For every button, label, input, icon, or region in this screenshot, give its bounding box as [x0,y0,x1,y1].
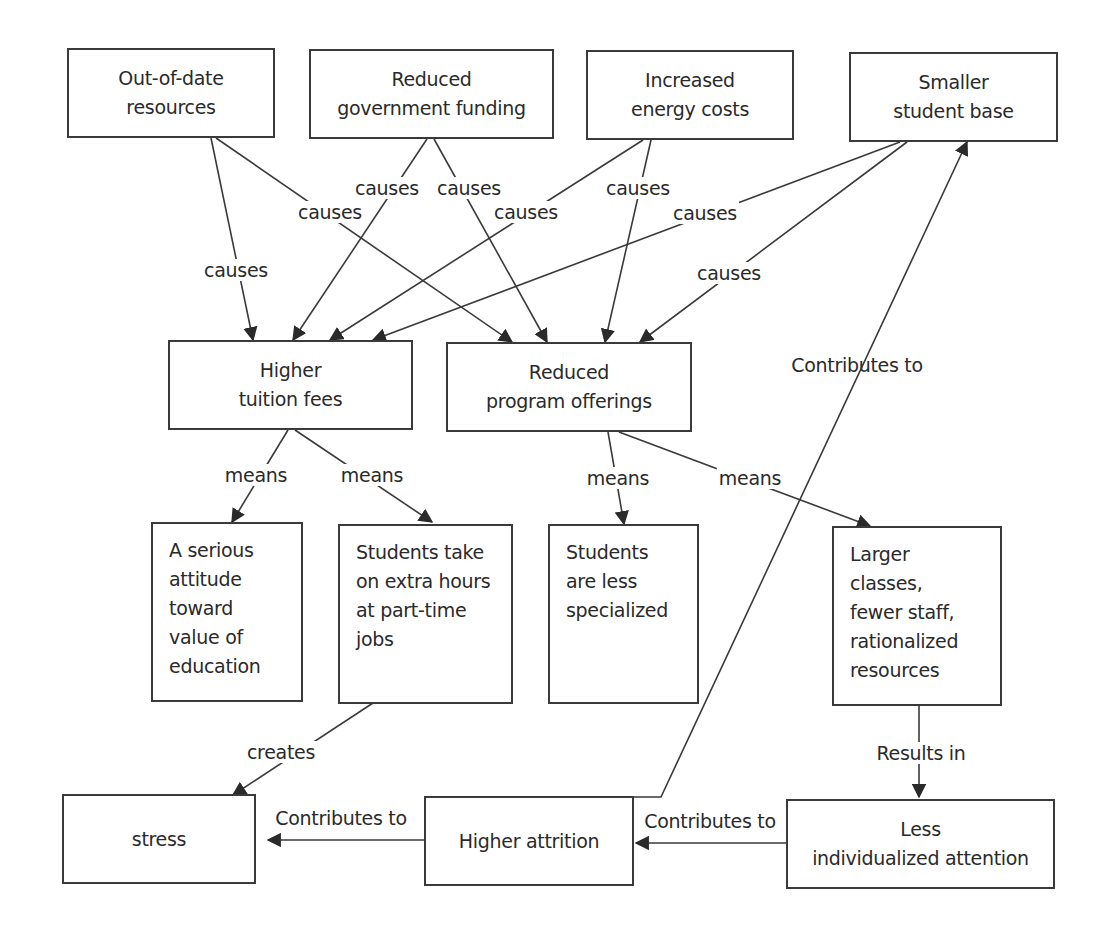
node-label: Higher attrition [459,827,599,856]
edge-label-causes: causes [296,201,364,223]
edge-outofdate-tuition [211,138,253,340]
node-reduced-program-offerings: Reduced program offerings [446,342,692,432]
node-label: Increased energy costs [631,66,749,124]
node-smaller-student-base: Smaller student base [849,52,1058,142]
edge-label-causes: causes [671,202,739,224]
edge-label-contributes-to: Contributes to [273,807,409,829]
edge-label-causes: causes [695,262,763,284]
node-label: A serious attitude toward value of educa… [169,536,261,681]
node-stress: stress [62,794,256,884]
node-label: Less individualized attention [812,815,1029,873]
edge-energy-program [605,140,651,342]
node-label: Smaller student base [893,68,1013,126]
node-label: Students are less specialized [566,538,668,625]
edge-label-means: means [339,464,405,486]
node-higher-tuition-fees: Higher tuition fees [168,340,413,430]
node-label: Out-of-date resources [118,64,223,122]
edge-label-causes: causes [435,177,503,199]
edge-label-means: means [223,464,289,486]
edge-label-contributes-to: Contributes to [642,810,778,832]
node-label: Reduced government funding [337,65,526,123]
node-label: Larger classes, fewer staff, rationalize… [850,540,984,685]
edge-label-means: means [717,467,783,489]
edge-label-means: means [585,467,651,489]
edge-label-causes: causes [604,177,672,199]
node-increased-energy-costs: Increased energy costs [586,50,794,140]
node-larger-classes: Larger classes, fewer staff, rationalize… [832,526,1002,706]
edge-label-creates: creates [245,741,317,763]
edge-base-program [640,142,907,342]
node-less-individualized-attention: Less individualized attention [786,799,1055,889]
node-reduced-government-funding: Reduced government funding [309,49,554,139]
node-label: Students take on extra hours at part-tim… [356,538,490,654]
node-higher-attrition: Higher attrition [424,796,634,886]
node-label: Higher tuition fees [239,356,343,414]
edge-outofdate-program [216,138,512,342]
edge-label-causes: causes [353,177,421,199]
node-serious-attitude: A serious attitude toward value of educa… [151,522,303,702]
node-out-of-date-resources: Out-of-date resources [67,48,275,138]
node-label: stress [132,825,186,854]
edge-label-results-in: Results in [875,742,968,764]
concept-map: Out-of-date resources Reduced government… [0,0,1116,939]
edge-energy-tuition [330,140,643,340]
edge-gov-tuition [293,139,427,340]
edge-label-causes: causes [202,259,270,281]
edge-label-contributes-to: Contributes to [789,354,925,376]
node-part-time-jobs: Students take on extra hours at part-tim… [338,524,513,704]
node-label: Reduced program offerings [486,358,652,416]
edge-label-causes: causes [492,201,560,223]
node-less-specialized: Students are less specialized [548,524,699,704]
